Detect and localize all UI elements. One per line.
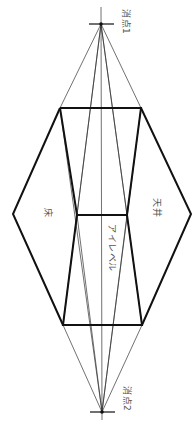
- eye-level-label: アイレベル: [106, 224, 119, 272]
- upper-plane: [60, 108, 141, 215]
- vanishing-point-2-dot: [100, 410, 104, 414]
- perspective-diagram: [0, 0, 193, 421]
- vanishing-point-1-dot: [99, 22, 103, 26]
- ceiling-wing: [141, 108, 191, 325]
- vanishing-point-1-label: 消点1: [120, 9, 133, 34]
- construction-lines-vp2: [60, 108, 142, 412]
- center-axis-line: [101, 7, 102, 420]
- floor-wing: [13, 108, 63, 325]
- vanishing-point-2-label: 消点2: [121, 386, 134, 411]
- floor-label: 床: [42, 208, 55, 218]
- ceiling-label: 天井: [151, 198, 164, 217]
- lower-plane: [63, 215, 142, 325]
